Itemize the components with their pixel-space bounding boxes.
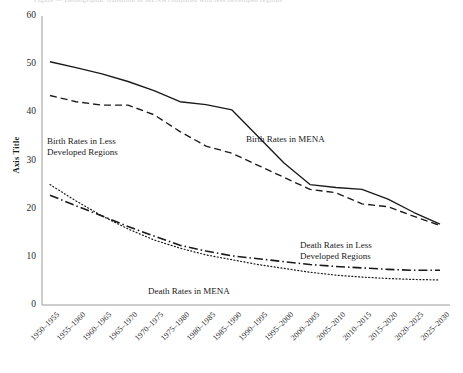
series-group xyxy=(50,62,440,280)
y-tick-label: 40 xyxy=(10,106,36,116)
annotation-line: Developed Regions xyxy=(47,147,118,158)
annotation-line: Birth Rates in MENA xyxy=(246,134,325,145)
y-tick-label: 10 xyxy=(10,251,36,261)
series-line xyxy=(50,95,440,225)
annotation-line: Death Rates in Less xyxy=(300,240,372,251)
ann-death-ldr: Death Rates in LessDeveloped Regions xyxy=(300,240,372,262)
y-tick-label: 50 xyxy=(10,58,36,68)
y-tick-label: 30 xyxy=(10,155,36,165)
ann-birth-mena: Birth Rates in MENA xyxy=(246,134,325,145)
chart-figure: Figure — Demographic transition in MENA … xyxy=(0,0,463,373)
series-line xyxy=(50,185,440,280)
ann-birth-ldr: Birth Rates in LessDeveloped Regions xyxy=(47,136,118,158)
y-tick-label: 60 xyxy=(10,10,36,20)
y-tick-label: 20 xyxy=(10,203,36,213)
annotation-line: Birth Rates in Less xyxy=(47,136,118,147)
annotation-line: Developed Regions xyxy=(300,251,372,262)
y-tick-label: 0 xyxy=(10,299,36,309)
ann-death-mena: Death Rates in MENA xyxy=(148,286,230,297)
annotation-line: Death Rates in MENA xyxy=(148,286,230,297)
